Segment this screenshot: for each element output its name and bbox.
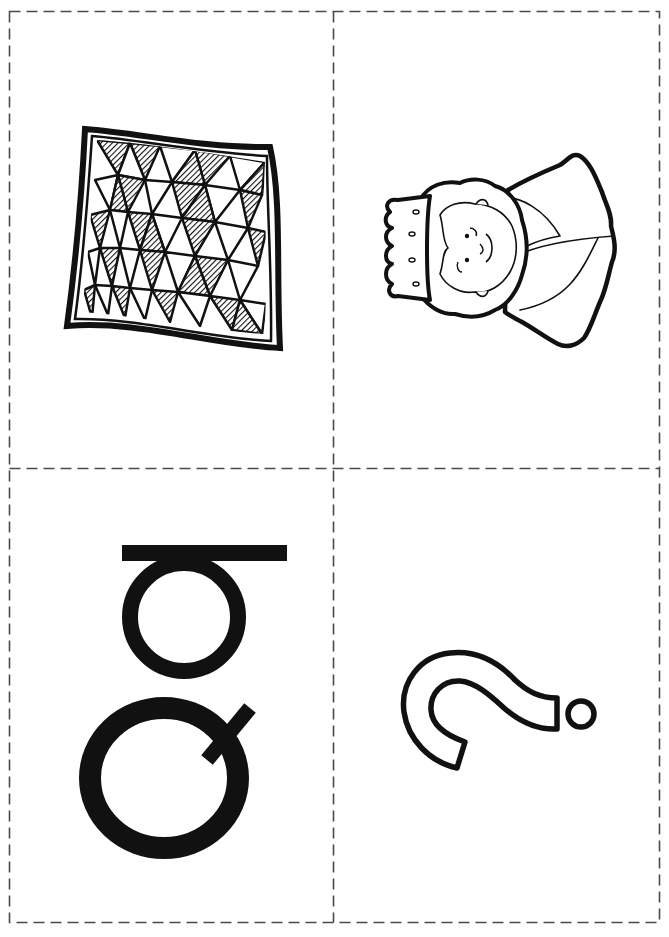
queen-crown xyxy=(386,196,430,300)
letter-lowercase-q xyxy=(122,545,287,671)
card-letters-q: Q q xyxy=(10,469,333,922)
flashcard-sheet: quilt xyxy=(0,0,669,937)
card-queen: queen xyxy=(334,12,659,468)
quilt-icon xyxy=(10,12,333,468)
queen-eye xyxy=(465,234,469,238)
queen-icon xyxy=(334,12,659,468)
card-question-mark: ? xyxy=(334,469,659,922)
letter-uppercase-q xyxy=(90,708,250,848)
letter-glyphs xyxy=(10,469,333,922)
question-mark-icon xyxy=(334,469,659,922)
queen-face xyxy=(440,203,516,293)
card-quilt: quilt xyxy=(10,12,333,468)
queen-eye xyxy=(465,258,469,262)
